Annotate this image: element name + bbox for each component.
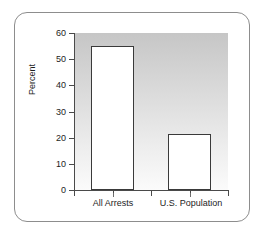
x-label-us-population: U.S. Population <box>149 198 233 208</box>
x-tick-mark-center <box>190 193 191 197</box>
y-tick-mark <box>69 59 74 60</box>
y-tick-mark <box>69 164 74 165</box>
y-tick-mark <box>69 138 74 139</box>
y-tick-label-60: 60 <box>38 29 66 38</box>
bar-all-arrests <box>91 46 134 190</box>
y-tick-mark <box>69 112 74 113</box>
y-tick-label-20: 20 <box>38 134 66 143</box>
y-tick-label-0: 0 <box>38 186 66 195</box>
y-axis-line <box>74 33 75 191</box>
y-axis-title: Percent <box>27 64 37 95</box>
x-tick-mark <box>151 191 152 196</box>
bar-chart-figure: 60 50 40 30 20 10 0 Percent All Arrests … <box>0 0 264 233</box>
bar-us-population <box>168 134 211 190</box>
y-tick-label-40: 40 <box>38 81 66 90</box>
x-label-all-arrests: All Arrests <box>75 198 151 208</box>
x-tick-mark <box>74 191 75 196</box>
x-tick-mark <box>228 191 229 196</box>
y-tick-label-10: 10 <box>38 160 66 169</box>
y-tick-label-30: 30 <box>38 108 66 117</box>
y-tick-label-50: 50 <box>38 55 66 64</box>
y-tick-mark <box>69 85 74 86</box>
x-tick-mark-center <box>113 193 114 197</box>
y-tick-mark <box>69 33 74 34</box>
